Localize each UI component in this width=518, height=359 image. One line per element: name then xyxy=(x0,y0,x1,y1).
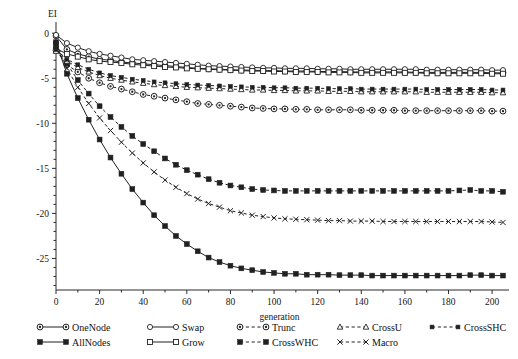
data-point-marker xyxy=(430,325,434,329)
legend-label: AllNodes xyxy=(72,337,110,348)
data-point-marker xyxy=(468,88,472,92)
data-point-marker xyxy=(293,69,298,74)
data-point-marker xyxy=(173,65,178,70)
data-point-marker xyxy=(413,70,418,75)
data-point-marker xyxy=(129,89,135,95)
data-point-marker xyxy=(348,188,353,193)
x-tick-label: 160 xyxy=(398,297,413,307)
data-point-marker xyxy=(97,59,102,64)
data-point-marker xyxy=(228,68,233,73)
data-point-marker xyxy=(119,60,124,65)
data-point-marker xyxy=(359,87,363,91)
data-point-marker xyxy=(293,271,298,276)
data-point-marker xyxy=(130,150,135,155)
data-point-marker xyxy=(490,273,495,278)
x-tick-label: 60 xyxy=(182,297,192,307)
data-point-marker xyxy=(97,115,102,120)
data-point-marker xyxy=(446,71,451,76)
legend-item-allnodes[interactable]: AllNodes xyxy=(38,337,111,348)
data-point-marker xyxy=(147,324,152,329)
data-point-marker xyxy=(195,66,200,71)
data-point-marker xyxy=(305,86,309,90)
y-tick-label: -20 xyxy=(36,209,49,219)
x-tick-label: 140 xyxy=(354,297,369,307)
data-point-marker xyxy=(381,273,386,278)
data-point-marker xyxy=(163,81,167,85)
legend-item-crossu[interactable]: CrossU xyxy=(337,322,403,333)
data-point-marker xyxy=(86,49,91,54)
data-point-marker xyxy=(207,84,211,88)
data-point-marker xyxy=(304,106,310,112)
legend-item-crossshc[interactable]: CrossSHC xyxy=(430,322,506,333)
y-tick-label: 0 xyxy=(44,29,49,39)
data-point-marker xyxy=(435,71,440,76)
data-point-marker xyxy=(282,69,287,74)
data-point-marker xyxy=(457,273,462,278)
data-point-marker xyxy=(468,71,473,76)
data-point-marker xyxy=(501,273,506,278)
data-point-marker xyxy=(86,57,91,62)
data-point-marker xyxy=(338,87,342,91)
data-point-marker xyxy=(272,188,277,193)
legend-item-crosswhc[interactable]: CrossWHC xyxy=(238,337,319,348)
data-point-marker xyxy=(163,224,168,229)
legend-label: Swap xyxy=(182,322,204,333)
data-point-marker xyxy=(75,78,80,83)
data-point-marker xyxy=(337,273,342,278)
legend-item-macro[interactable]: Macro xyxy=(337,337,398,348)
data-point-marker xyxy=(195,196,200,201)
data-point-marker xyxy=(250,69,255,74)
data-point-marker xyxy=(97,51,102,56)
data-point-marker xyxy=(294,86,298,90)
data-point-marker xyxy=(414,87,418,91)
data-point-marker xyxy=(501,88,505,92)
data-point-marker xyxy=(206,201,211,206)
data-point-marker xyxy=(250,187,255,192)
data-point-marker xyxy=(315,107,321,113)
legend-item-swap[interactable]: Swap xyxy=(147,322,204,333)
data-point-marker xyxy=(238,340,243,345)
data-point-marker xyxy=(76,63,80,67)
data-point-marker xyxy=(86,117,91,122)
data-point-marker xyxy=(108,115,113,120)
data-point-marker xyxy=(217,205,222,210)
data-point-marker xyxy=(237,324,243,330)
data-point-marker xyxy=(141,79,145,83)
data-point-marker xyxy=(239,185,244,190)
data-point-marker xyxy=(447,88,451,92)
data-point-marker xyxy=(457,71,462,76)
data-point-marker xyxy=(315,272,320,277)
data-point-marker xyxy=(479,71,484,76)
data-point-marker xyxy=(402,273,407,278)
data-point-marker xyxy=(347,107,353,113)
data-point-marker xyxy=(184,66,189,71)
data-point-marker xyxy=(500,108,506,114)
data-point-marker xyxy=(263,324,269,330)
data-point-marker xyxy=(206,255,211,260)
data-point-marker xyxy=(261,188,266,193)
data-point-marker xyxy=(359,70,364,75)
data-point-marker xyxy=(250,85,254,89)
legend-label: Trunc xyxy=(272,322,296,333)
data-point-marker xyxy=(65,57,69,61)
x-tick-label: 80 xyxy=(226,297,236,307)
data-point-marker xyxy=(261,69,266,74)
data-point-marker xyxy=(184,168,189,173)
data-point-marker xyxy=(249,105,255,111)
legend-item-onenode[interactable]: OneNode xyxy=(37,322,111,333)
data-point-marker xyxy=(260,106,266,112)
data-point-marker xyxy=(446,108,452,114)
data-point-marker xyxy=(456,325,460,329)
legend-item-grow[interactable]: Grow xyxy=(148,337,206,348)
data-point-marker xyxy=(261,270,266,275)
legend-label: CrossWHC xyxy=(272,337,318,348)
legend-item-trunc[interactable]: Trunc xyxy=(237,322,296,333)
data-point-marker xyxy=(162,177,167,182)
data-point-marker xyxy=(424,273,429,278)
data-point-marker xyxy=(86,91,91,96)
x-tick-label: 120 xyxy=(311,297,326,307)
data-point-marker xyxy=(141,63,146,68)
data-point-marker xyxy=(141,58,146,63)
data-point-marker xyxy=(184,191,189,196)
series-swap xyxy=(53,32,505,72)
